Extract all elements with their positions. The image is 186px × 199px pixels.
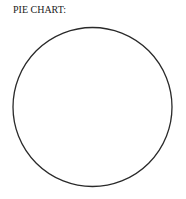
- pie-chart: [0, 0, 186, 199]
- pie-outline: [13, 28, 172, 187]
